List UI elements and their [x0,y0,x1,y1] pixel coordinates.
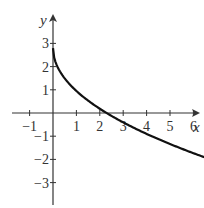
y-tick-label: −2 [34,152,49,167]
x-tick-label: 1 [73,119,80,134]
x-tick-label: 2 [96,119,103,134]
y-tick-label: 3 [42,36,49,51]
y-tick-label: −1 [34,129,49,144]
function-graph: −1123456321−1−2−3 x y [0,0,204,208]
y-tick-label: 2 [42,60,49,75]
function-curve [53,48,204,162]
y-axis-label: y [38,12,47,28]
x-axis-label: x [192,119,200,135]
x-tick-label: 5 [167,119,174,134]
y-tick-label: 1 [42,83,49,98]
y-tick-label: −3 [34,176,49,191]
